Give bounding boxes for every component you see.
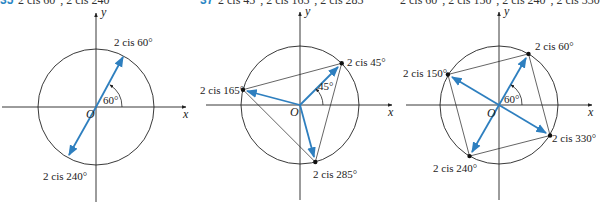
point-45 <box>340 61 344 65</box>
point-label-165: 2 cis 165° <box>200 84 244 96</box>
point-label-150: 2 cis 150° <box>403 67 447 79</box>
point-label-60: 2 cis 60° <box>535 40 574 52</box>
panel-3: x y 60° O 2 cis 60° 2 cis 150° 2 cis 240… <box>403 4 596 200</box>
vector-330 <box>499 105 546 133</box>
point-label-330: 2 cis 330° <box>552 132 596 144</box>
point-label-285: 2 cis 285° <box>313 168 357 180</box>
panel-1: x y 60° O 2 cis 60° 2 cis 240° <box>2 5 189 202</box>
point-label-60: 2 cis 60° <box>114 36 153 48</box>
point-240 <box>467 154 471 158</box>
point-60 <box>526 52 530 56</box>
origin-label: O <box>290 105 299 119</box>
point-label-45: 2 cis 45° <box>347 56 386 68</box>
vector-150 <box>452 77 499 105</box>
angle-label: 45° <box>318 80 333 92</box>
x-axis-label: x <box>587 105 594 119</box>
x-axis-label: x <box>182 107 189 121</box>
origin-label: O <box>487 106 496 120</box>
x-axis-label: x <box>387 105 394 119</box>
angle-label: 60° <box>103 94 118 106</box>
y-axis-label: y <box>503 4 510 18</box>
point-label-240: 2 cis 240° <box>43 170 87 182</box>
y-axis-label: y <box>100 5 107 19</box>
point-285 <box>313 160 317 164</box>
y-axis-label: y <box>304 4 311 18</box>
angle-label: 60° <box>504 93 519 105</box>
vector-165 <box>247 91 300 105</box>
point-label-240: 2 cis 240° <box>433 162 477 174</box>
panel-2: x y 45° O 2 cis 45° 2 cis 165° 2 cis 285… <box>200 4 394 200</box>
origin-label: O <box>86 107 95 121</box>
